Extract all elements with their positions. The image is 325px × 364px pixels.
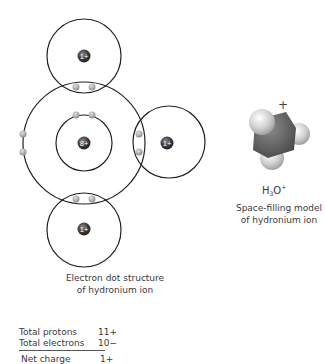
nucleus-oxygen: 8+ xyxy=(78,137,91,150)
electron-dot xyxy=(20,149,27,156)
electron-dot xyxy=(20,131,27,138)
nucleus-hydrogen-right: 1+ xyxy=(161,137,174,150)
ion-charge-symbol: + xyxy=(278,98,288,112)
svg-text:1+: 1+ xyxy=(163,139,172,148)
electron-dot xyxy=(136,131,143,138)
electron-dot xyxy=(136,149,143,156)
electron-dot xyxy=(73,112,80,119)
electron-dot-diagram: 8+ 1+ 1+ 1+ + xyxy=(0,0,325,364)
electron-dot xyxy=(73,196,80,203)
electron-dot xyxy=(89,112,96,119)
hydronium-formula: H3O+ xyxy=(262,183,286,197)
electron-dot xyxy=(73,84,80,91)
space-filling-caption: Space-filling model of hydronium ion xyxy=(232,202,325,226)
nucleus-hydrogen-top: 1+ xyxy=(78,50,91,63)
electron-dot-caption: Electron dot structure of hydronium ion xyxy=(60,272,170,296)
nucleus-hydrogen-bottom: 1+ xyxy=(78,223,91,236)
svg-text:8+: 8+ xyxy=(80,139,89,148)
table-divider xyxy=(19,350,105,351)
svg-text:1+: 1+ xyxy=(80,225,89,234)
svg-text:1+: 1+ xyxy=(80,52,89,61)
space-filling-model: + xyxy=(249,98,310,170)
electron-dot xyxy=(89,196,96,203)
electron-dot xyxy=(89,84,96,91)
hydrogen-sphere-left xyxy=(249,109,275,135)
